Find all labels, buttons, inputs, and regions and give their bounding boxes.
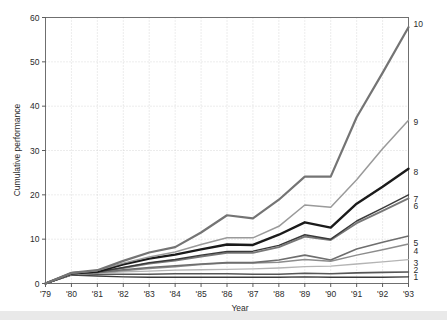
- y-tick-label: 60: [30, 13, 40, 23]
- series-label-5: 5: [414, 238, 419, 248]
- x-tick-label: '91: [351, 289, 362, 299]
- x-axis-ticks: '79'80'81'82'83'84'85'86'87'88'89'90'91'…: [40, 284, 414, 299]
- bottom-edge-band: [0, 311, 447, 320]
- x-tick-label: '86: [221, 289, 232, 299]
- y-tick-label: 0: [35, 279, 40, 289]
- series-line-9: [46, 120, 409, 283]
- series-label-10: 10: [414, 19, 424, 29]
- x-tick-label: '92: [377, 289, 388, 299]
- x-tick-label: '80: [66, 289, 77, 299]
- y-tick-label: 50: [30, 57, 40, 67]
- y-tick-label: 20: [30, 190, 40, 200]
- x-tick-label: '93: [403, 289, 414, 299]
- x-tick-label: '83: [144, 289, 155, 299]
- x-tick-label: '79: [40, 289, 51, 299]
- series-label-3: 3: [414, 258, 419, 268]
- x-tick-label: '84: [170, 289, 181, 299]
- x-tick-label: '82: [118, 289, 129, 299]
- y-tick-label: 10: [30, 234, 40, 244]
- y-tick-label: 40: [30, 101, 40, 111]
- x-tick-label: '81: [92, 289, 103, 299]
- x-tick-label: '85: [196, 289, 207, 299]
- chart-figure: 0102030405060 '79'80'81'82'83'84'85'86'8…: [0, 0, 447, 320]
- series-label-8: 8: [414, 167, 419, 177]
- y-axis-ticks: 0102030405060: [30, 13, 45, 289]
- line-chart: 0102030405060 '79'80'81'82'83'84'85'86'8…: [0, 0, 447, 320]
- x-tick-label: '89: [299, 289, 310, 299]
- y-axis-title: Cumulative performance: [12, 103, 22, 196]
- series-end-labels: 12345678910: [414, 19, 424, 282]
- x-tick-label: '90: [325, 289, 336, 299]
- series-label-9: 9: [414, 117, 419, 127]
- series-label-7: 7: [414, 194, 419, 204]
- x-tick-label: '88: [273, 289, 284, 299]
- y-tick-label: 30: [30, 146, 40, 156]
- x-tick-label: '87: [247, 289, 258, 299]
